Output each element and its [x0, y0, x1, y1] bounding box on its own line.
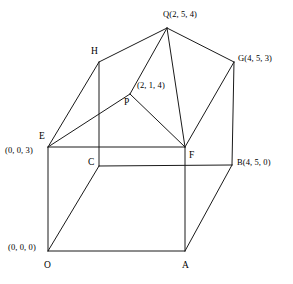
edge-O-C: [48, 166, 99, 251]
geometry-diagram: Q(2, 5, 4)HG(4, 5, 3)(2, 1, 4)PE(0, 0, 3…: [0, 0, 293, 284]
label-B: B(4, 5, 0): [237, 158, 271, 167]
label-C: C: [88, 158, 94, 168]
edge-G-Q: [167, 28, 234, 62]
edge-A-B: [185, 165, 232, 251]
label-Q: Q(2, 5, 4): [163, 10, 197, 19]
edge-group: [48, 28, 234, 251]
edge-F-P: [130, 94, 185, 147]
label-P-coord: (2, 1, 4): [137, 81, 165, 90]
edge-F-G: [185, 62, 234, 147]
edge-C-B: [99, 165, 232, 166]
label-E-coord: (0, 0, 3): [5, 146, 33, 155]
label-A: A: [182, 261, 189, 271]
figure-canvas: [0, 0, 293, 284]
label-G: G(4, 5, 3): [238, 54, 272, 63]
edge-E-P: [48, 94, 130, 147]
label-F: F: [189, 151, 194, 161]
edge-E-H: [48, 62, 99, 147]
label-E: E: [39, 132, 45, 142]
label-H: H: [91, 47, 98, 57]
edge-F-Q: [167, 28, 185, 147]
label-P: P: [124, 98, 129, 108]
edge-H-Q: [99, 28, 167, 62]
edge-B-G: [232, 62, 234, 165]
label-O: O: [44, 261, 51, 271]
label-O-coord: (0, 0, 0): [8, 243, 36, 252]
